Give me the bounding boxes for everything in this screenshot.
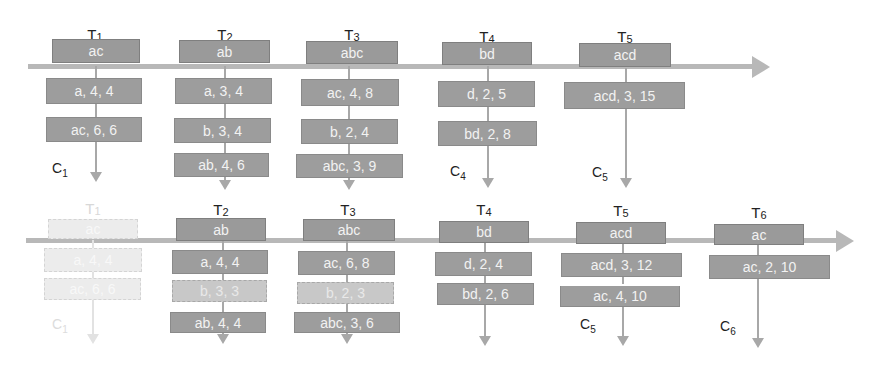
candidate-set-label: C5	[592, 164, 608, 183]
candidate-entry-new: ac, 4, 10	[560, 285, 680, 307]
transaction-itemset-box: abc	[303, 219, 395, 241]
transaction-itemset-box: abc	[306, 41, 398, 64]
candidate-entry: a, 4, 4	[172, 250, 268, 274]
candidate-entry: bd, 2, 8	[438, 121, 537, 146]
arrow-down-icon	[479, 336, 491, 346]
transaction-itemset-box: bd	[439, 221, 529, 243]
transaction-itemset-box: ac	[52, 39, 140, 63]
transaction-label: T1	[48, 200, 138, 217]
arrow-down-icon	[752, 338, 764, 348]
candidate-set-label: C6	[720, 318, 736, 337]
candidate-entry: abc, 3, 6	[294, 312, 400, 333]
arrow-down-icon	[90, 172, 102, 182]
arrow-down-icon	[341, 334, 353, 344]
candidate-entry: ab, 4, 6	[174, 153, 269, 177]
candidate-entry: b, 3, 4	[174, 118, 271, 143]
arrow-down-icon	[87, 334, 99, 344]
arrow-down-icon	[217, 334, 229, 344]
candidate-entry: a, 4, 4	[44, 248, 142, 272]
candidate-set-label: C1	[52, 316, 68, 335]
candidate-entry: acd, 3, 15	[564, 82, 685, 109]
bottom-timeline-arrowhead	[836, 230, 854, 252]
transaction-label: T2	[176, 201, 266, 218]
candidate-entry: ac, 4, 8	[301, 79, 399, 106]
transaction-label: T6	[714, 204, 804, 221]
candidate-entry: d, 2, 5	[438, 81, 535, 107]
arrow-down-icon	[343, 180, 355, 190]
candidate-entry: ab, 4, 4	[170, 312, 266, 333]
candidate-entry-pruned: b, 3, 3	[172, 280, 267, 302]
arrow-down-icon	[617, 336, 629, 346]
candidate-entry: bd, 2, 6	[437, 283, 534, 305]
candidate-entry: a, 3, 4	[175, 78, 272, 104]
arrow-down-icon	[219, 180, 231, 190]
divider	[560, 284, 680, 286]
candidate-set-label: C1	[52, 160, 68, 179]
transaction-itemset-box: ac	[714, 224, 804, 245]
transaction-itemset-box: ac	[48, 219, 138, 239]
transaction-label: T5	[576, 202, 666, 219]
candidate-set-label: C4	[450, 163, 466, 182]
candidate-entry: d, 2, 4	[435, 252, 532, 276]
candidate-entry: acd, 3, 12	[561, 253, 682, 277]
transaction-label: T4	[438, 201, 530, 218]
candidate-entry-pruned: b, 2, 3	[297, 282, 394, 304]
transaction-label: T3	[302, 201, 394, 218]
candidate-entry: abc, 3, 9	[296, 154, 403, 178]
arrow-down-icon	[482, 178, 494, 188]
candidate-entry: ac, 2, 10	[709, 255, 830, 279]
transaction-itemset-box: acd	[579, 43, 671, 67]
arrow-down-icon	[620, 178, 632, 188]
candidate-entry: ac, 6, 6	[44, 278, 141, 300]
transaction-itemset-box: bd	[442, 42, 532, 65]
candidate-entry: b, 2, 4	[301, 119, 398, 144]
transaction-itemset-box: ab	[176, 218, 266, 241]
candidate-entry: ac, 6, 8	[298, 251, 395, 275]
candidate-set-label: C5	[580, 316, 596, 335]
transaction-itemset-box: acd	[576, 222, 666, 244]
candidate-entry: ac, 6, 6	[46, 117, 142, 142]
candidate-entry: a, 4, 4	[46, 78, 142, 104]
top-timeline-arrowhead	[752, 56, 770, 78]
transaction-itemset-box: ab	[179, 40, 270, 63]
